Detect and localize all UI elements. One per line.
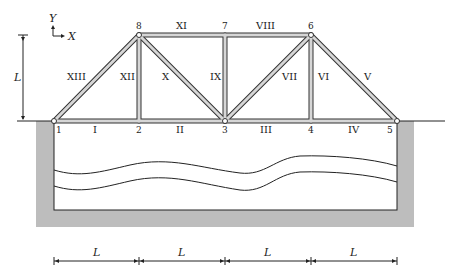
- member-label-VIII: VIII: [255, 20, 275, 31]
- node-label-4: 4: [308, 125, 314, 135]
- axis-indicator: [51, 25, 65, 38]
- member-label-III: III: [260, 124, 272, 135]
- member-label-II: II: [176, 124, 184, 135]
- node-label-7: 7: [222, 21, 228, 31]
- span-label-4: L: [349, 246, 357, 259]
- member-label-VI: VI: [317, 71, 329, 82]
- member-label-I: I: [93, 124, 97, 135]
- axis-label-x: X: [67, 30, 77, 43]
- height-dimension-label: L: [13, 71, 21, 84]
- member-label-XIII: XIII: [67, 71, 86, 82]
- node-label-3: 3: [222, 125, 228, 135]
- span-dimensions: [54, 257, 397, 265]
- truss-diagram: 1 2 3 4 5 6 7 8 I II III IV V VI VII VII…: [0, 0, 455, 278]
- truss-members: [54, 35, 397, 121]
- member-label-X: X: [162, 71, 170, 82]
- node-label-1: 1: [56, 125, 62, 135]
- axis-label-y: Y: [49, 12, 58, 25]
- member-label-XI: XI: [176, 20, 187, 31]
- span-label-1: L: [92, 246, 100, 259]
- member-label-IX: IX: [210, 71, 222, 82]
- span-label-3: L: [263, 246, 271, 259]
- member-label-XII: XII: [120, 71, 135, 82]
- node-label-6: 6: [308, 21, 314, 31]
- member-label-IV: IV: [348, 124, 360, 135]
- member-label-VII: VII: [281, 71, 297, 82]
- node-label-5: 5: [387, 125, 393, 135]
- span-label-2: L: [177, 246, 185, 259]
- node-label-2: 2: [136, 125, 142, 135]
- member-label-V: V: [363, 71, 372, 82]
- node-label-8: 8: [136, 21, 142, 31]
